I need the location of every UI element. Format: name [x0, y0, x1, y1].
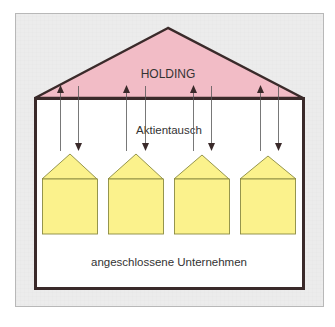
holding-label: HOLDING	[141, 67, 196, 81]
companies-label: angeschlossene Unternehmen	[91, 256, 247, 268]
exchange-label: Aktientausch	[136, 124, 202, 136]
holding-diagram: HOLDING Aktientausch	[0, 0, 335, 327]
